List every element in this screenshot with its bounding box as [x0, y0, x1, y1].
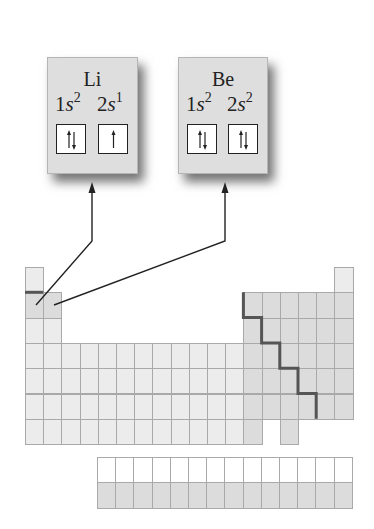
beryllium-pointer-arrow	[54, 182, 229, 305]
arrows-overlay	[0, 0, 374, 529]
arrowhead-icon	[89, 182, 96, 193]
arrowhead-icon	[222, 182, 229, 193]
lithium-pointer-arrow	[36, 182, 96, 305]
metal-nonmetal-staircase	[243, 292, 316, 419]
